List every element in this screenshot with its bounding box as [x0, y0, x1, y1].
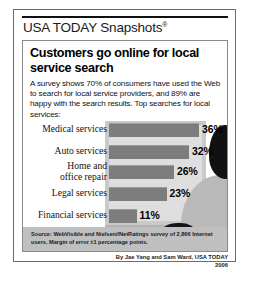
snapshot-frame: USA TODAY Snapshots® Customers go online… [13, 9, 236, 262]
bar-value-label: 23% [170, 188, 191, 199]
bar-value-label: 26% [177, 166, 198, 177]
bar-value-label: 36% [202, 124, 223, 135]
bar-category-label: Auto services [22, 146, 107, 156]
source-band: Source: WebVisible and Nielsen//NetRatin… [23, 227, 227, 251]
bar-fill [109, 187, 167, 201]
bar-row: Legal services23% [23, 187, 227, 200]
bar-fill [109, 165, 174, 179]
bar-fill [109, 209, 137, 223]
bar-category-label: Home and office repair [22, 161, 107, 182]
byline-credit: By Jae Yang and Sam Ward, USA TODAY [110, 254, 228, 262]
bar-value-label: 11% [140, 210, 160, 221]
bar-category-label: Medical services [22, 124, 107, 134]
byline: By Jae Yang and Sam Ward, USA TODAY 2006 [110, 254, 228, 269]
content-box: Customers go online for local service se… [22, 40, 228, 252]
bar-category-label: Legal services [22, 188, 107, 198]
bar-value-label: 32% [192, 146, 213, 157]
bar-track [109, 123, 209, 136]
bar-fill [109, 145, 189, 159]
bar-row: Home and office repair26% [23, 165, 227, 178]
bar-fill [109, 123, 199, 137]
byline-year: 2006 [110, 262, 228, 270]
registered-mark-icon: ® [162, 21, 167, 28]
bar-category-label: Financial services [22, 210, 107, 220]
bar-row: Financial services11% [23, 209, 227, 222]
bar-row: Auto services32% [23, 145, 227, 158]
masthead-title: USA TODAY Snapshots® [23, 20, 229, 39]
bar-row: Medical services36% [23, 123, 227, 136]
source-text: Source: WebVisible and Nielsen//NetRatin… [31, 231, 217, 246]
deck-text: A survey shows 70% of consumers have use… [30, 79, 222, 120]
masthead-rule [22, 16, 228, 18]
headline: Customers go online for local service se… [30, 46, 220, 75]
bar-track [109, 187, 209, 200]
masthead-brand: USA TODAY Snapshots [23, 20, 162, 35]
